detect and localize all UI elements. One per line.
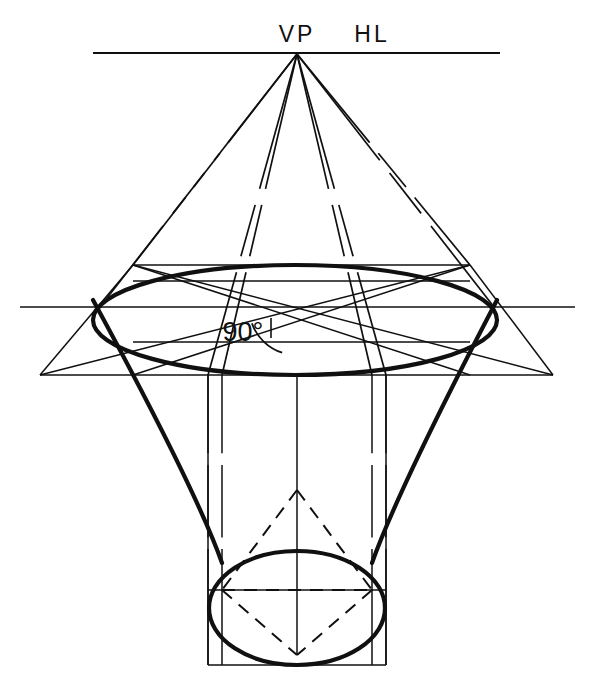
vanishing-point-rays-group (100, 54, 494, 375)
vp-ray-3-seg-3 (100, 226, 163, 307)
dashed-edge-1 (222, 490, 297, 590)
dashed-edge-2 (297, 490, 372, 590)
vp-ray-4-seg-2 (390, 173, 422, 213)
vanishing-point-label: VP (279, 21, 316, 47)
vp-ray-8-seg-1 (297, 54, 334, 189)
cone-side-2 (372, 300, 497, 563)
vp-ray-2-seg-2 (378, 153, 406, 187)
upper-box-right-edge (470, 265, 553, 375)
vp-ray-7-seg-1 (260, 54, 297, 189)
vp-ray-6-seg-2 (332, 205, 344, 256)
vp-ray-4-seg-3 (431, 226, 494, 307)
cone-side-1 (93, 300, 222, 563)
vp-ray-8-seg-2 (339, 205, 353, 256)
perspective-drawing-canvas: VP HL 90° (0, 0, 595, 690)
perspective-construction-diagram: VP HL 90° (0, 0, 595, 690)
construction-lines-group (20, 265, 575, 665)
right-angle-label: 90° (223, 317, 264, 347)
vp-ray-3-seg-2 (173, 173, 205, 213)
horizon-line-label: HL (354, 21, 389, 47)
vp-ray-5-seg-2 (250, 205, 262, 256)
vp-ray-2-seg-3 (415, 197, 470, 265)
vp-ray-7-seg-2 (241, 205, 255, 256)
object-outline-group (93, 265, 497, 665)
vp-ray-6-seg-3 (348, 272, 372, 375)
